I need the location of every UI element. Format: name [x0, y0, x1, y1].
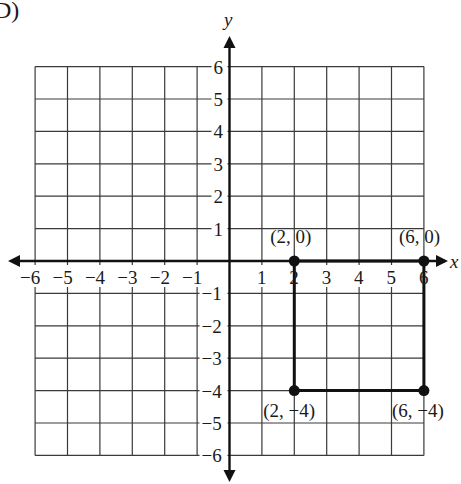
x-tick-label: −3 — [117, 268, 137, 287]
y-tick-label: 6 — [214, 58, 224, 77]
y-axis-up-arrow-icon — [224, 36, 236, 48]
x-tick-label: −2 — [150, 268, 170, 287]
point-label: (6, −4) — [392, 401, 444, 420]
y-tick-label: −1 — [202, 284, 222, 303]
x-tick-label: 6 — [419, 268, 429, 287]
x-axis-label: x — [450, 252, 458, 271]
y-axis-label: y — [224, 10, 232, 29]
y-tick-label: 3 — [214, 155, 224, 174]
x-tick-label: 2 — [289, 268, 299, 287]
x-axis-left-arrow-icon — [8, 255, 20, 267]
x-tick-label: −5 — [53, 268, 73, 287]
x-tick-label: 5 — [387, 268, 397, 287]
y-tick-label: −2 — [202, 317, 222, 336]
y-axis-down-arrow-icon — [224, 470, 236, 482]
point-label: (6, 0) — [399, 227, 440, 246]
axes — [8, 36, 448, 482]
x-tick-label: 4 — [354, 268, 364, 287]
y-tick-label: −5 — [202, 414, 222, 433]
x-tick-label: −6 — [20, 268, 40, 287]
y-tick-label: −6 — [202, 446, 222, 465]
y-tick-label: 1 — [214, 220, 224, 239]
x-axis-right-arrow-icon — [436, 255, 448, 267]
y-tick-label: 2 — [214, 187, 224, 206]
x-tick-label: −4 — [85, 268, 105, 287]
y-tick-label: 4 — [214, 122, 224, 141]
point-label: (2, −4) — [263, 401, 315, 420]
data-point — [289, 256, 300, 267]
x-tick-label: 1 — [257, 268, 267, 287]
data-point — [418, 256, 429, 267]
data-point — [289, 385, 300, 396]
point-label: (2, 0) — [270, 227, 311, 246]
y-tick-label: −4 — [202, 382, 222, 401]
y-tick-label: 5 — [214, 90, 224, 109]
x-tick-label: −1 — [182, 268, 202, 287]
data-point — [418, 385, 429, 396]
y-tick-label: −3 — [202, 349, 222, 368]
x-tick-label: 3 — [322, 268, 332, 287]
